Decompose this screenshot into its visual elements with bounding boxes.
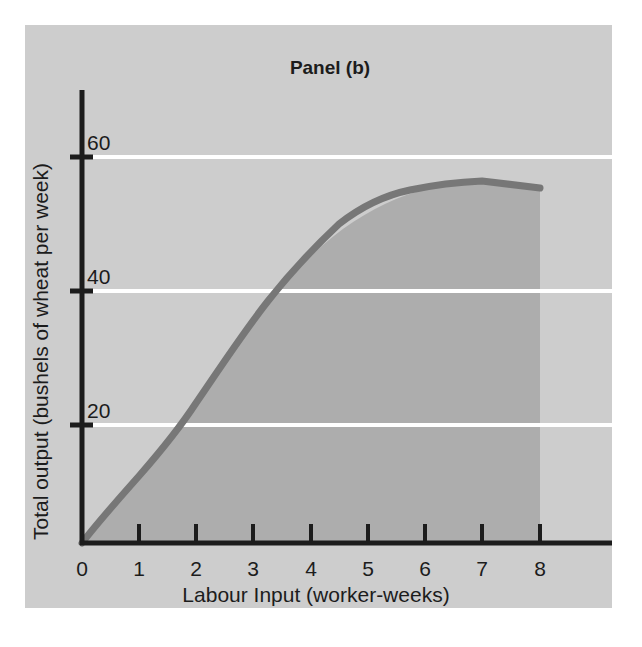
x-tick-label-4: 4 [305, 557, 317, 580]
x-tick-label-8: 8 [534, 557, 546, 580]
x-tick-label-1: 1 [133, 557, 145, 580]
x-tick-label-6: 6 [419, 557, 431, 580]
y-axis-title: Total output (bushels of wheat per week) [29, 163, 52, 540]
production-function-chart: Panel (b) 60 40 20 0 1 2 3 4 5 6 7 8 Lab… [0, 0, 642, 647]
figure-container: Panel (b) 60 40 20 0 1 2 3 4 5 6 7 8 Lab… [0, 0, 642, 647]
x-tick-label-0: 0 [76, 557, 88, 580]
x-axis-title: Labour Input (worker-weeks) [182, 583, 449, 606]
y-tick-label-60: 60 [87, 131, 110, 154]
x-tick-label-5: 5 [362, 557, 374, 580]
area-fill [82, 181, 540, 543]
x-tick-label-2: 2 [190, 557, 202, 580]
y-tick-label-20: 20 [87, 399, 110, 422]
y-tick-label-40: 40 [87, 265, 110, 288]
chart-title: Panel (b) [290, 57, 370, 78]
x-tick-label-7: 7 [476, 557, 488, 580]
x-tick-label-3: 3 [247, 557, 259, 580]
